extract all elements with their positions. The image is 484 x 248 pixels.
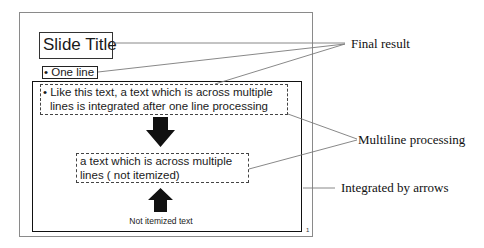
multiline-processing-label: Multiline processing: [358, 132, 465, 148]
connector-lines: [0, 0, 484, 248]
final-result-connectors: [98, 43, 345, 84]
arrow-down-icon: [146, 117, 175, 147]
integrated-by-arrows-label: Integrated by arrows: [341, 180, 449, 196]
arrow-up-icon: [148, 188, 173, 212]
multiline-connectors: [249, 114, 357, 169]
final-result-label: Final result: [351, 36, 410, 52]
